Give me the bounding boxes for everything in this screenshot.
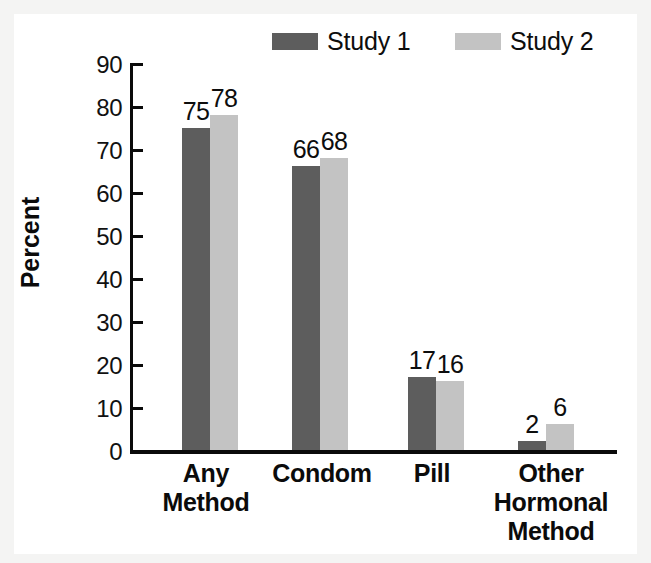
x-axis-category-line: Other [471,459,631,488]
y-axis-label-70: 70 [82,137,122,165]
bar-study-1-other-hormonal-method [518,441,546,450]
x-axis-category-any-method: Any Method [148,459,264,517]
y-axis-label-60: 60 [82,180,122,208]
chart-legend: Study 1 Study 2 [258,24,638,58]
bar-study-2-condom [320,158,348,450]
y-axis-label-40: 40 [82,266,122,294]
x-axis-category-line: Condom [252,459,392,488]
legend-entry-study-2: Study 2 [455,24,593,58]
y-axis-title: Percent [16,173,45,313]
x-axis-category-other-hormonal-method: Other Hormonal Method [471,459,631,546]
y-axis-label-10: 10 [82,395,122,423]
bar-study-1-any-method [182,128,210,451]
y-axis-label-80: 80 [82,94,122,122]
bar-study-1-pill [408,377,436,450]
bar-study-2-pill [436,381,464,450]
y-axis-label-20: 20 [82,352,122,380]
bar-value-label: 16 [430,350,470,379]
legend-label-study-1: Study 1 [327,27,410,56]
bar-value-label: 6 [540,393,580,422]
bar-value-label: 78 [204,84,244,113]
y-axis-label-50: 50 [82,223,122,251]
y-axis-label-90: 90 [82,51,122,79]
x-axis-category-line: Method [148,488,264,517]
x-axis-category-line: Any [148,459,264,488]
x-axis-category-line: Pill [382,459,482,488]
legend-entry-study-1: Study 1 [272,24,410,58]
x-axis-category-condom: Condom [252,459,392,488]
bar-study-2-other-hormonal-method [546,424,574,450]
chart-bars-container: 75661727868166 [133,63,617,450]
x-axis-category-line: Method [471,517,631,546]
y-axis-label-0: 0 [82,438,122,466]
legend-swatch-study-2-icon [455,33,501,50]
chart-figure: Study 1 Study 2 Percent 90 80 70 60 50 4… [0,0,651,563]
legend-swatch-study-1-icon [272,33,318,50]
legend-label-study-2: Study 2 [510,27,593,56]
x-axis-category-line: Hormonal [471,488,631,517]
bar-value-label: 68 [314,127,354,156]
bar-study-2-any-method [210,115,238,450]
x-axis-category-pill: Pill [382,459,482,488]
y-axis-label-30: 30 [82,309,122,337]
x-axis-line [130,450,617,454]
bar-study-1-condom [292,166,320,450]
